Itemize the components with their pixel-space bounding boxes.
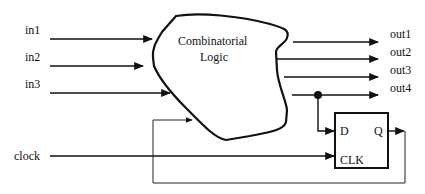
ff-d-label: D	[340, 124, 349, 138]
output-label-out4: out4	[390, 81, 411, 95]
input-label-clock: clock	[14, 149, 40, 163]
circuit-diagram: in1 in2 in3 clock Combinatorial Logic ou…	[0, 0, 425, 194]
input-label-in2: in2	[25, 50, 40, 64]
logic-label-line2: Logic	[200, 50, 228, 64]
output-label-out2: out2	[390, 45, 411, 59]
d-input-wire	[318, 95, 334, 131]
ff-q-label: Q	[374, 124, 383, 138]
output-label-out3: out3	[390, 63, 411, 77]
output-label-out1: out1	[390, 27, 411, 41]
ff-clk-label: CLK	[340, 153, 364, 167]
logic-label-line1: Combinatorial	[178, 34, 248, 48]
input-label-in1: in1	[25, 23, 40, 37]
input-label-in3: in3	[25, 77, 40, 91]
